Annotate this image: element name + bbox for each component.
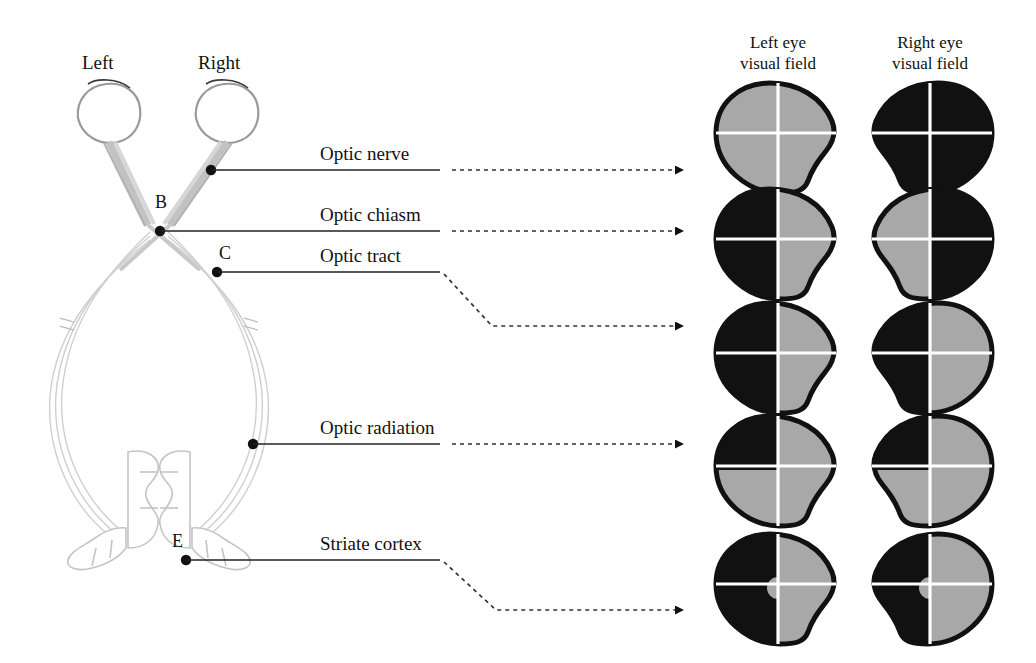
column-header-right-eye: Right eye visual field <box>850 32 1010 75</box>
column-header-left-eye: Left eye visual field <box>698 32 858 75</box>
column-header-left-eye-line2: visual field <box>698 53 858 74</box>
pathway-label-optic-chiasm: Optic chiasm <box>320 204 421 226</box>
point-label-b: B <box>155 192 167 213</box>
column-header-right-eye-line2: visual field <box>850 53 1010 74</box>
visual-pathway-figure: Left Right B C E Optic nerve Optic chias… <box>0 0 1036 663</box>
eye-label-left: Left <box>82 52 114 74</box>
pathway-label-optic-tract: Optic tract <box>320 245 401 267</box>
eye-label-right: Right <box>198 52 240 74</box>
pathway-label-striate-cortex: Striate cortex <box>320 533 422 555</box>
point-label-e: E <box>172 531 183 552</box>
point-label-c: C <box>219 243 231 264</box>
pathway-label-optic-nerve: Optic nerve <box>320 143 409 165</box>
text-layer: Left Right B C E Optic nerve Optic chias… <box>0 0 1036 663</box>
pathway-label-optic-radiation: Optic radiation <box>320 417 435 439</box>
column-header-left-eye-line1: Left eye <box>698 32 858 53</box>
column-header-right-eye-line1: Right eye <box>850 32 1010 53</box>
